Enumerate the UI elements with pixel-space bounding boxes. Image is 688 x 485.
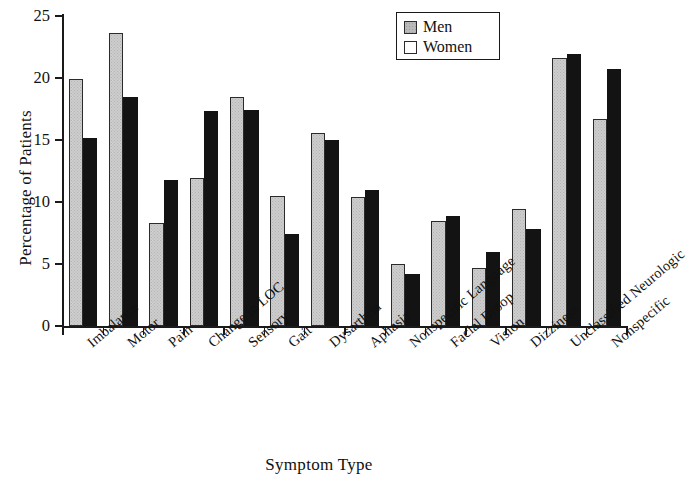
legend-label-men: Men [423,19,452,35]
legend-item-men: Men [404,17,499,37]
bar-men-1 [109,33,123,326]
y-tick-label-10: 10 [18,194,50,211]
bar-women-11 [526,229,540,326]
y-tick-10 [55,201,63,203]
legend: Men Women [396,12,500,60]
bar-men-4 [230,97,244,326]
bar-men-3 [190,178,204,326]
x-tick-0 [62,327,64,335]
x-axis-title: Symptom Type [0,455,638,475]
bar-men-0 [69,79,83,326]
legend-item-women: Women [404,37,499,57]
legend-swatch-men-icon [404,21,417,34]
bar-men-2 [149,223,163,326]
bar-women-12 [567,54,581,326]
y-tick-15 [55,139,63,141]
bar-men-13 [593,119,607,326]
bar-women-2 [164,180,178,326]
y-tick-25 [55,15,63,17]
bar-women-1 [123,97,137,326]
y-tick-5 [55,263,63,265]
y-tick-label-0: 0 [18,318,50,335]
bar-women-5 [285,234,299,326]
bar-women-0 [83,138,97,326]
bar-men-6 [311,133,325,326]
y-tick-20 [55,77,63,79]
bar-men-12 [552,58,566,326]
bars-area [63,16,627,326]
bar-women-3 [204,111,218,326]
y-tick-label-15: 15 [18,132,50,149]
legend-label-women: Women [423,39,472,55]
bar-men-5 [270,196,284,326]
bar-women-6 [325,140,339,326]
bar-women-13 [607,69,621,326]
y-tick-label-25: 25 [18,8,50,25]
legend-swatch-women-icon [404,41,417,54]
y-axis-title: Percentage of Patients [16,58,36,318]
y-tick-label-20: 20 [18,70,50,87]
y-tick-label-5: 5 [18,256,50,273]
